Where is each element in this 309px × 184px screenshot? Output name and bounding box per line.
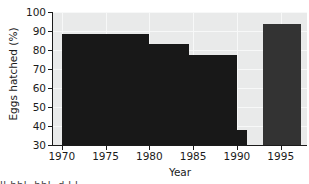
x-axis-line bbox=[52, 145, 307, 146]
bar-1980-1984.5[interactable] bbox=[149, 44, 188, 145]
bar-1990-1991[interactable] bbox=[237, 130, 247, 145]
y-tick-mark-40 bbox=[48, 126, 52, 127]
y-tick-mark-100 bbox=[48, 12, 52, 13]
x-tick-label-1970: 1970 bbox=[48, 151, 75, 162]
y-tick-label-40: 40 bbox=[14, 121, 46, 132]
bar-1970-1975[interactable] bbox=[62, 34, 106, 145]
y-tick-mark-90 bbox=[48, 31, 52, 32]
y-tick-mark-80 bbox=[48, 50, 52, 51]
y-tick-label-100: 100 bbox=[14, 7, 46, 18]
y-tick-label-30: 30 bbox=[14, 140, 46, 151]
x-axis-label: Year bbox=[53, 166, 307, 178]
y-tick-mark-70 bbox=[48, 69, 52, 70]
y-axis-tick-labels: 30405060708090100 bbox=[14, 0, 46, 184]
y-tick-mark-60 bbox=[48, 88, 52, 89]
bar-1975-1980[interactable] bbox=[106, 34, 150, 145]
y-tick-label-70: 70 bbox=[14, 64, 46, 75]
caption-sliver: ll-bbl. bbl. d.l.l. . . . bbox=[0, 180, 309, 184]
y-tick-label-80: 80 bbox=[14, 45, 46, 56]
bar-1984.5-1990[interactable] bbox=[189, 55, 237, 145]
x-tick-label-1985: 1985 bbox=[180, 151, 207, 162]
plot-area bbox=[53, 12, 307, 145]
x-tick-label-1995: 1995 bbox=[267, 151, 294, 162]
gridline-x-1990 bbox=[237, 12, 238, 145]
gridline-y-100 bbox=[53, 12, 307, 13]
x-tick-label-1980: 1980 bbox=[136, 151, 163, 162]
y-tick-mark-50 bbox=[48, 107, 52, 108]
y-tick-label-90: 90 bbox=[14, 26, 46, 37]
y-tick-mark-30 bbox=[48, 145, 52, 146]
x-tick-label-1975: 1975 bbox=[92, 151, 119, 162]
x-tick-label-1990: 1990 bbox=[224, 151, 251, 162]
chart-figure: Eggs hatched (%) 30405060708090100 Year … bbox=[0, 0, 309, 184]
y-tick-label-50: 50 bbox=[14, 102, 46, 113]
bar-1993-1997[interactable] bbox=[263, 24, 301, 145]
y-tick-label-60: 60 bbox=[14, 83, 46, 94]
